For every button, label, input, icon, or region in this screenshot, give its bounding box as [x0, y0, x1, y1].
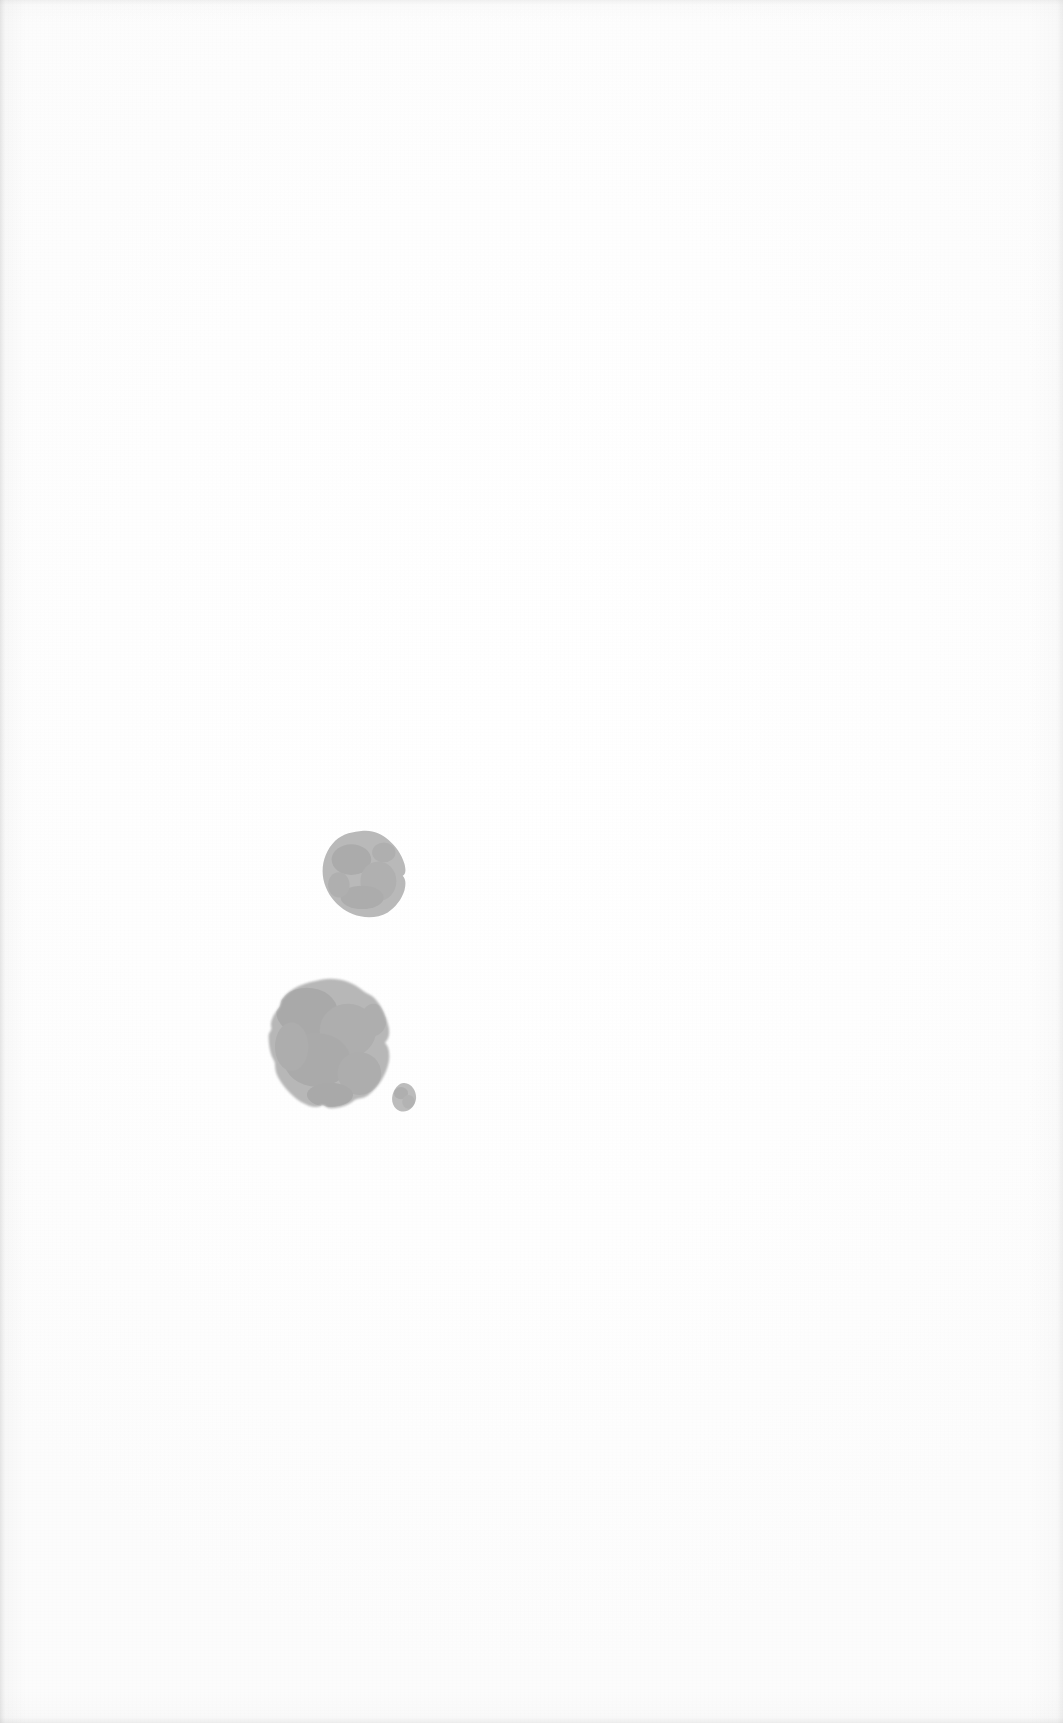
- scanned-page: [0, 0, 1063, 1723]
- page-text-content: [110, 150, 950, 1530]
